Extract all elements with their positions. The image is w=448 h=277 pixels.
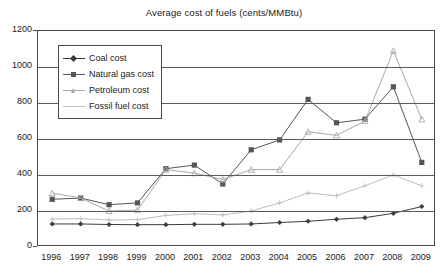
legend-label: Fossil fuel cost [89,101,149,111]
legend-item-petroleum-cost[interactable]: Petroleum cost [63,82,154,98]
series-coal-cost [50,204,425,227]
data-point [50,221,55,226]
legend-marker-icon [63,100,85,112]
data-point [334,193,339,198]
chart-title: Average cost of fuels (cents/MMBtu) [0,7,448,18]
data-point [163,213,168,218]
data-point [220,222,225,227]
data-point [277,220,282,225]
gridline-600 [38,139,434,140]
gridline-400 [38,175,434,176]
data-point [305,97,310,102]
data-point [192,222,197,227]
data-point [391,211,396,216]
data-point [277,200,282,205]
series-fossil-fuel-cost [50,172,425,222]
data-point [305,190,310,195]
data-point [249,221,254,226]
y-axis-label-200: 200 [0,204,32,214]
data-point [362,215,367,220]
data-point [135,217,140,222]
legend-label: Coal cost [89,53,127,63]
data-point [106,202,111,207]
data-point [50,197,55,202]
data-point [419,183,424,188]
y-tick-mark-0 [33,246,37,247]
data-point [362,183,367,188]
data-point [391,84,396,89]
data-point [78,221,83,226]
chart-legend: Coal costNatural gas costPetroleum costF… [58,45,162,119]
legend-marker-icon [63,84,85,96]
data-point [305,219,310,224]
series-line [52,207,422,225]
y-axis-label-400: 400 [0,168,32,178]
data-point [334,217,339,222]
data-point [135,200,140,205]
data-point [50,217,55,222]
data-point [419,204,424,209]
y-axis-label-0: 0 [0,240,32,250]
data-point [334,120,339,125]
legend-marker-icon [63,52,85,64]
y-axis-label-1000: 1000 [0,60,32,70]
data-point [106,217,111,222]
y-axis-label-800: 800 [0,96,32,106]
legend-label: Petroleum cost [89,85,149,95]
data-point [192,211,197,216]
data-point [163,222,168,227]
legend-label: Natural gas cost [89,69,154,79]
legend-item-fossil-fuel-cost[interactable]: Fossil fuel cost [63,98,154,114]
y-axis-label-600: 600 [0,132,32,142]
data-point [220,212,225,217]
data-point [49,190,55,196]
data-point [419,160,424,165]
legend-marker-icon [63,68,85,80]
fuel-cost-line-chart: Average cost of fuels (cents/MMBtu) Coal… [0,0,448,277]
legend-item-coal-cost[interactable]: Coal cost [63,50,154,66]
data-point [192,163,197,168]
x-axis-label-2009: 2009 [401,252,441,262]
y-axis-label-1200: 1200 [0,24,32,34]
data-point [249,147,254,152]
data-point [78,216,83,221]
data-point [135,222,140,227]
legend-item-natural-gas-cost[interactable]: Natural gas cost [63,66,154,82]
data-point [106,222,111,227]
gridline-200 [38,211,434,212]
y-tick-mark-1200 [33,30,37,31]
